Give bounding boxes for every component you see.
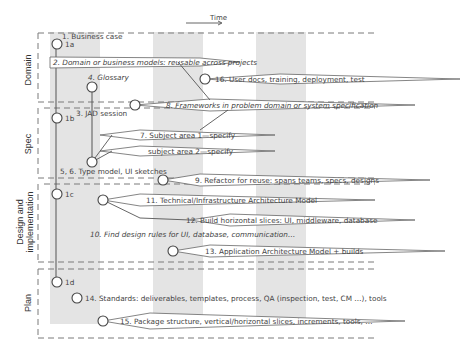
node-refactor[interactable] xyxy=(158,175,168,185)
milestone-1a-label: 1a xyxy=(65,40,74,49)
node-1d[interactable] xyxy=(52,277,62,287)
item-2-domain-models: 2. Domain or business models: reusable a… xyxy=(53,58,257,67)
node-1c[interactable] xyxy=(52,189,62,199)
item-14-standards: 14. Standards: deliverables, templates, … xyxy=(85,294,387,303)
item-9-refactor: 9. Refactor for reuse: spans teams, spec… xyxy=(195,176,379,185)
lane-label-spec: Spec xyxy=(23,133,33,154)
item-4-glossary: 4. Glossary xyxy=(88,73,130,82)
time-label: Time xyxy=(209,14,227,22)
item-12-horizontal-slices: 12. Build horizontal slices: UI, middlew… xyxy=(186,216,378,225)
node-1b[interactable] xyxy=(52,113,62,123)
node-glossary[interactable] xyxy=(87,82,97,92)
item-7b-subject-area-2: subject area 2—specify xyxy=(148,147,234,156)
item-11-technical-model: 11. Technical/Infrastructure Architectur… xyxy=(146,196,317,205)
item-8-frameworks: 8. Frameworks in problem domain or syste… xyxy=(166,101,379,110)
item-16-user-docs: 16. User docs, training, deployment, tes… xyxy=(215,75,365,84)
milestone-1c-label: 1c xyxy=(65,190,74,199)
lane-label-plan: Plan xyxy=(23,294,33,312)
time-axis: Time xyxy=(186,14,227,25)
milestone-1d-label: 1d xyxy=(65,278,74,287)
lane-labels: Domain Spec Design and implementation Pl… xyxy=(15,54,35,312)
item-labels: 1. Business case 2. Domain or business m… xyxy=(53,32,387,326)
node-1a[interactable] xyxy=(52,39,62,49)
node-application-architecture[interactable] xyxy=(168,246,178,256)
item-15-package-structure: 15. Package structure, vertical/horizont… xyxy=(120,317,373,326)
node-frameworks[interactable] xyxy=(130,100,140,110)
item-5-6-type-model: 5, 6. Type model, UI sketches xyxy=(60,167,167,176)
node-type-model[interactable] xyxy=(87,157,97,167)
lane-label-domain: Domain xyxy=(23,54,33,85)
item-1-business-case: 1. Business case xyxy=(62,32,123,41)
item-7-subject-area-1: 7. Subject area 1—specify xyxy=(140,131,236,140)
item-13-application-architecture: 13. Application Architecture Model + bui… xyxy=(205,247,364,256)
item-10-design-rules: 10. Find design rules for UI, database, … xyxy=(90,230,295,239)
node-technical[interactable] xyxy=(98,195,108,205)
wedges xyxy=(50,57,460,329)
connector-frameworks-to-subject-area xyxy=(200,110,228,130)
lane-label-design-line2: implementation xyxy=(25,191,35,252)
node-package-structure[interactable] xyxy=(98,316,108,326)
lane-label-design-line1: Design and xyxy=(15,199,25,245)
item-3-jad-session: 3. JAD session xyxy=(76,109,127,118)
milestone-1b-label: 1b xyxy=(65,114,75,123)
node-user-docs[interactable] xyxy=(200,74,210,84)
process-timeline-diagram: Time Domain Spec Design and implementati… xyxy=(0,0,473,362)
node-standards[interactable] xyxy=(72,293,82,303)
